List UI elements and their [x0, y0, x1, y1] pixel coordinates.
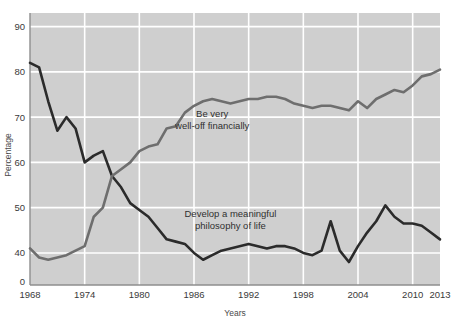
y-axis-title: Percentage [3, 133, 13, 177]
y-tick-label: 50 [14, 202, 25, 213]
x-tick-label: 1980 [129, 289, 150, 300]
series-annotation-label: well-off financially [174, 120, 250, 131]
y-tick-label: 90 [14, 21, 25, 32]
x-tick-label: 1968 [19, 289, 40, 300]
chart-figure: 0405060708090 19681974198019861992199820… [0, 0, 460, 322]
y-tick-label: 40 [14, 247, 25, 258]
series-annotation-label: Develop a meaningful [184, 208, 276, 219]
y-tick-label: 60 [14, 157, 25, 168]
y-tick-label: 0 [20, 276, 25, 287]
plot-background [30, 13, 440, 285]
x-tick-label: 2013 [429, 289, 450, 300]
x-tick-label: 2010 [402, 289, 423, 300]
y-tick-label: 70 [14, 112, 25, 123]
line-chart: 0405060708090 19681974198019861992199820… [0, 0, 460, 322]
x-tick-label: 1986 [183, 289, 204, 300]
series-annotation-label: philosophy of life [195, 220, 266, 231]
x-tick-label: 1974 [74, 289, 95, 300]
x-tick-label: 1998 [293, 289, 314, 300]
y-tick-label: 80 [14, 66, 25, 77]
x-tick-label: 1992 [238, 289, 259, 300]
x-tick-label: 2004 [347, 289, 368, 300]
series-annotation-label: Be very [196, 108, 228, 119]
x-axis-title: Years [224, 308, 245, 318]
